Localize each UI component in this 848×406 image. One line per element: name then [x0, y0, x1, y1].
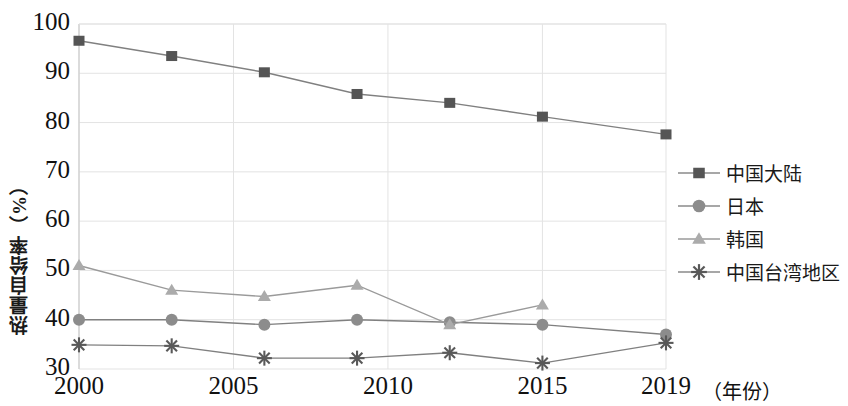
y-tick-100: 100	[10, 8, 70, 36]
legend-label-1: 中国大陆	[722, 159, 802, 186]
series-2	[73, 314, 672, 341]
circle-marker-icon	[676, 196, 722, 216]
y-tick-50: 50	[10, 254, 70, 282]
legend-label-2: 日本	[722, 192, 764, 219]
series-1	[74, 36, 672, 140]
y-tick-40: 40	[10, 304, 70, 332]
chart-legend: 中国大陆日本韩国中国台湾地区	[676, 156, 848, 288]
x-tick-2015: 2015	[502, 372, 582, 400]
series-4	[72, 335, 674, 370]
triangle-marker-icon	[676, 229, 722, 249]
y-tick-70: 70	[10, 156, 70, 184]
chart-container: 热量自给率（%） 10090807060504030 2000200520102…	[0, 0, 848, 406]
x-tick-2000: 2000	[39, 372, 119, 400]
legend-label-4: 中国台湾地区	[722, 258, 840, 285]
legend-label-3: 韩国	[722, 225, 764, 252]
y-tick-90: 90	[10, 57, 70, 85]
y-tick-80: 80	[10, 107, 70, 135]
x-tick-2019: 2019	[626, 372, 706, 400]
series-3	[73, 259, 549, 329]
legend-item-4[interactable]: 中国台湾地区	[676, 255, 848, 288]
asterisk-marker-icon	[676, 262, 722, 282]
legend-item-1[interactable]: 中国大陆	[676, 156, 848, 189]
series-layer	[72, 36, 674, 371]
x-tick-2010: 2010	[348, 372, 428, 400]
square-marker-icon	[676, 163, 722, 183]
x-axis-unit-label: （年份）	[702, 376, 782, 405]
legend-item-3[interactable]: 韩国	[676, 222, 848, 255]
legend-item-2[interactable]: 日本	[676, 189, 848, 222]
y-tick-60: 60	[10, 205, 70, 233]
x-tick-2005: 2005	[193, 372, 273, 400]
